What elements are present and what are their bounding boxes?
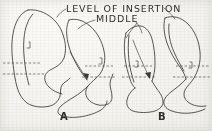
panel-b-left-profile bbox=[124, 26, 163, 113]
panel-label-b: B bbox=[158, 111, 166, 122]
panel-b-right-profile bbox=[164, 17, 206, 114]
panel-a-outer-profile bbox=[12, 10, 70, 107]
diagram-page: LEVEL OF INSERTION MIDDLE A B bbox=[0, 0, 212, 131]
panel-label-a: A bbox=[60, 111, 68, 122]
reference-lines-a bbox=[3, 63, 44, 74]
panel-a-right-profile bbox=[58, 19, 113, 117]
diagram-title-line-2: MIDDLE bbox=[96, 13, 138, 24]
insertion-arrow-b bbox=[133, 40, 151, 79]
